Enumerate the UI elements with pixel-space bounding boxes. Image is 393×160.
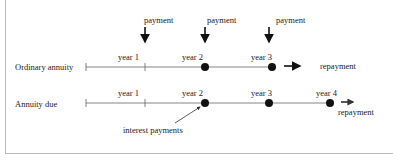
row1-year-3: year 3: [251, 53, 272, 62]
annuity-due-label: Annuity due: [15, 100, 57, 109]
row2-year-1: year 1: [118, 89, 139, 98]
row2-year-2: year 2: [182, 89, 203, 98]
row2-repayment-label: repayment: [338, 108, 374, 117]
row1-repayment-label: repayment: [320, 62, 356, 71]
payment-label-1: payment: [144, 16, 173, 25]
row1-year-2: year 2: [182, 53, 203, 62]
row2-year-4: year 4: [316, 89, 337, 98]
payment-arrows: [145, 27, 269, 42]
interest-payments-label: interest payments: [123, 126, 183, 135]
row1-year-1: year 1: [118, 53, 139, 62]
annuity-due-timeline: [86, 99, 353, 107]
payment-label-2: payment: [207, 16, 236, 25]
payment-label-3: payment: [276, 16, 305, 25]
ordinary-annuity-timeline: [86, 63, 300, 71]
ordinary-annuity-label: Ordinary annuity: [15, 63, 73, 72]
row2-year-3: year 3: [251, 89, 272, 98]
annuity-timeline-diagram: [0, 0, 393, 160]
interest-pointer-arrow: [175, 107, 200, 123]
